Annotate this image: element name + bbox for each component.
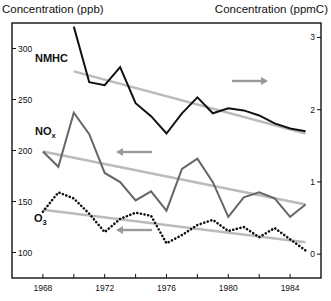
y-tick-label-left: 100 [18, 248, 32, 258]
line-chart: Concentration (ppb) Concentration (ppmC)… [0, 0, 331, 301]
o3-trend-line [43, 210, 306, 243]
y-tick-label-right: 0 [310, 249, 315, 259]
nox-trend-line [43, 152, 306, 205]
x-tick-label: 1968 [33, 283, 52, 293]
y-tick-label-left: 250 [18, 95, 32, 105]
y-axis-title-left: Concentration (ppb) [2, 3, 104, 15]
y-tick-label-left: 200 [18, 146, 32, 156]
y-tick-label-right: 1 [310, 177, 315, 187]
y-tick-label-right: 2 [310, 105, 315, 115]
nox-label: NOx [35, 125, 57, 140]
nmhc-label: NMHC [35, 52, 68, 64]
y-tick-label-left: 300 [18, 44, 32, 54]
x-tick-label: 1980 [219, 283, 238, 293]
plot-area: 196819721976198019841001502002503000123N… [0, 0, 331, 301]
y-tick-label-left: 150 [18, 197, 32, 207]
y-tick-label-right: 3 [310, 32, 315, 42]
nox-axis-arrow-icon-head [116, 148, 123, 156]
nmhc-series-line [74, 27, 306, 134]
x-tick-label: 1972 [95, 283, 114, 293]
nmhc-axis-arrow-icon-head [261, 77, 268, 85]
x-tick-label: 1976 [157, 283, 176, 293]
nox-series-line [43, 113, 306, 217]
o3-axis-arrow-icon-head [116, 226, 123, 234]
o3-series-line [43, 192, 306, 250]
o3-label: O3 [34, 212, 47, 227]
y-axis-title-right: Concentration (ppmC) [215, 3, 328, 15]
x-tick-label: 1984 [281, 283, 300, 293]
